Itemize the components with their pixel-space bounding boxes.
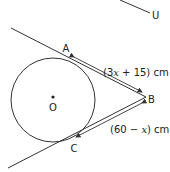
center-dot-o <box>51 95 54 98</box>
measure-bc: (60 − x) cm <box>110 124 169 135</box>
label-a: A <box>63 43 70 54</box>
tangent-line-ab <box>11 28 146 97</box>
measure-ab: (3x + 15) cm <box>103 67 169 78</box>
measure-bc-suffix: ) cm <box>147 124 169 135</box>
line-u <box>120 0 150 13</box>
measure-bc-prefix: (60 − <box>110 124 141 135</box>
measure-ab-prefix: (3 <box>103 67 113 78</box>
measure-ab-suffix: + 15) cm <box>119 67 169 78</box>
tangent-diagram: A B C O U (3x + 15) cm (60 − x) cm <box>0 0 170 172</box>
label-u: U <box>152 10 159 21</box>
label-c: C <box>71 143 78 154</box>
label-o: O <box>49 102 57 113</box>
label-b: B <box>148 94 155 105</box>
